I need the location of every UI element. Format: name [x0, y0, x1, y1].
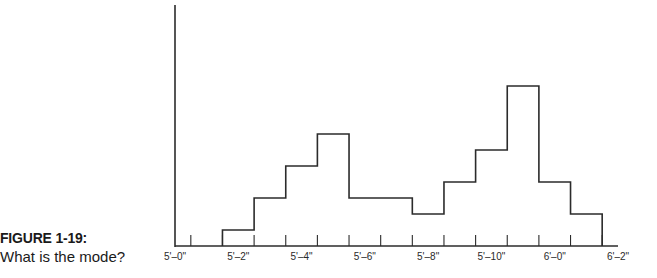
x-tick-labels: 5'–0"5'–2"5'–4"5'–6"5'–8"5'–10"6'–0"6'–2…: [164, 251, 630, 262]
figure-question: What is the mode?: [0, 247, 125, 266]
x-tick-label: 5'–4": [290, 251, 313, 262]
histogram-bar: [349, 198, 381, 246]
figure-caption: FIGURE 1-19: What is the mode?: [0, 229, 125, 266]
histogram-bar: [507, 86, 539, 246]
x-tick-label: 5'–2": [227, 251, 250, 262]
histogram-bar: [476, 150, 508, 246]
histogram-bar: [317, 134, 349, 246]
histogram-bar: [381, 198, 413, 246]
x-tick-label: 5'–8": [417, 251, 440, 262]
axes: [175, 5, 618, 247]
x-tick-label: 5'–0": [164, 251, 187, 262]
histogram-bar: [222, 230, 254, 246]
histogram-bars: [222, 86, 602, 246]
histogram-bar: [412, 214, 444, 246]
x-tick-label: 6'–0": [544, 251, 567, 262]
histogram-bar: [444, 182, 476, 246]
histogram-bar: [254, 198, 286, 246]
x-tick-label: 5'–10": [478, 251, 506, 262]
histogram-bar: [571, 214, 603, 246]
histogram-outline: [222, 86, 602, 246]
x-tick-label: 6'–2": [607, 251, 630, 262]
figure-label: FIGURE 1-19:: [0, 229, 125, 247]
histogram-bar: [286, 166, 318, 246]
x-ticks: [191, 235, 602, 246]
histogram-bar: [539, 182, 571, 246]
x-tick-label: 5'–6": [354, 251, 377, 262]
